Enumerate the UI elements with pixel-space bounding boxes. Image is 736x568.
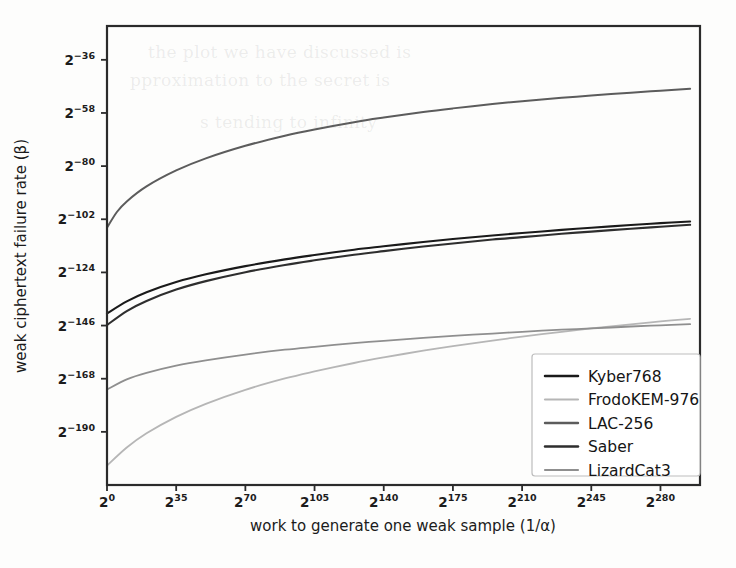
y-tick-label: 2−168 (58, 369, 96, 387)
y-tick-label: 2−58 (64, 103, 95, 121)
x-axis-label: work to generate one weak sample (1/α) (250, 517, 556, 535)
legend-label: Saber (588, 438, 634, 456)
y-axis-label: weak ciphertext failure rate (β) (12, 139, 30, 373)
x-tick-label: 20 (99, 492, 115, 510)
legend-label: FrodoKEM-976 (588, 391, 699, 409)
chart-legend[interactable]: Kyber768FrodoKEM-976LAC-256SaberLizardCa… (532, 354, 700, 480)
x-axis-ticks: 20235270210521402175221022452280 (99, 485, 675, 510)
series-line-kyber768 (107, 221, 690, 313)
x-tick-label: 2210 (507, 492, 537, 510)
x-tick-label: 2105 (300, 492, 329, 510)
legend-label: Kyber768 (588, 368, 662, 386)
y-tick-label: 2−190 (58, 422, 96, 440)
y-tick-label: 2−102 (58, 209, 95, 227)
x-tick-label: 235 (165, 492, 188, 510)
y-tick-label: 2−80 (64, 156, 95, 174)
x-tick-label: 2175 (438, 492, 467, 510)
x-tick-label: 2140 (369, 492, 399, 510)
x-tick-label: 2280 (646, 492, 676, 510)
y-tick-label: 2−146 (58, 316, 96, 334)
series-line-saber (107, 225, 690, 325)
x-tick-label: 2245 (577, 492, 606, 510)
y-axis-ticks: 2−362−582−802−1022−1242−1462−1682−190 (58, 50, 107, 440)
x-tick-label: 270 (234, 492, 257, 510)
y-tick-label: 2−36 (64, 50, 95, 68)
plot-canvas: 20235270210521402175221022452280 2−362−5… (0, 0, 736, 568)
legend-label: LAC-256 (588, 415, 653, 433)
legend-label: LizardCat3 (588, 462, 671, 480)
y-tick-label: 2−124 (58, 262, 96, 280)
series-line-lac-256 (107, 89, 690, 228)
chart-figure: the plot we have discussed is pproximati… (0, 0, 736, 568)
